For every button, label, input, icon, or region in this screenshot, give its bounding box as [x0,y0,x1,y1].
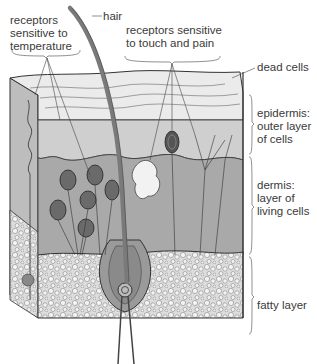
touch-receptor [132,160,160,198]
label-dead-cells: dead cells [257,61,309,74]
label-fatty-layer: fatty layer [257,299,307,312]
label-hair: hair [103,10,122,23]
label-dermis: dermis: layer of living cells [257,179,309,218]
label-temperature-receptors: receptors sensitive to temperature [10,14,72,53]
pacinian-corpuscle [165,131,179,153]
label-epidermis: epidermis: outer layer of cells [257,107,311,146]
label-touch-pain-receptors: receptors sensitive to touch and pain [126,24,222,50]
